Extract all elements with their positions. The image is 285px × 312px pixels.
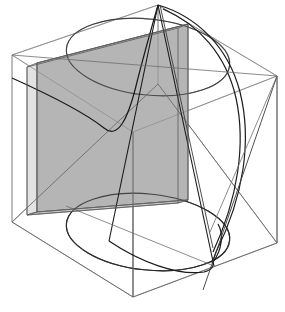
slab-front-face — [37, 24, 188, 212]
ruling-line-right-corner-to-ellipse — [210, 76, 277, 232]
cutting-plane-slab — [27, 24, 188, 215]
cube-bottom-face-front-left — [12, 222, 133, 297]
geometric-figure-svg: Cube with inscribed cylinder, cutting pl… — [0, 0, 285, 312]
ruling-line-right-corner-down — [203, 76, 277, 290]
geometric-figure-container: Cube with inscribed cylinder, cutting pl… — [0, 0, 285, 312]
cube-bottom-face-front-right — [133, 243, 277, 297]
conic-curve-lower-loop — [109, 241, 213, 273]
chord-bottom-face — [66, 206, 214, 266]
